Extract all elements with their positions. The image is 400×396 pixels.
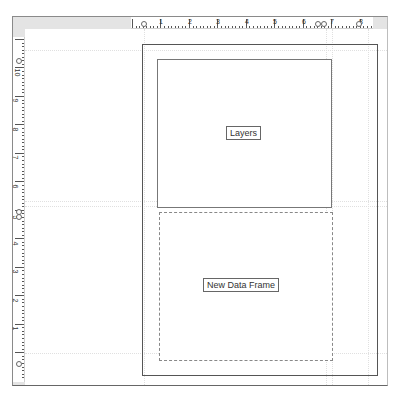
- ruler-tick: [346, 26, 347, 28]
- ruler-tick: [22, 71, 24, 72]
- ruler-tick: [22, 206, 24, 207]
- ruler-label: 4: [245, 18, 249, 25]
- ruler-tick: [371, 26, 372, 28]
- ruler-tick: [22, 377, 24, 378]
- horizontal-ruler[interactable]: 1 2 3 4 5 6 7 8: [131, 17, 373, 29]
- ruler-tick: [22, 139, 24, 140]
- data-frame-layers[interactable]: Layers: [157, 59, 332, 208]
- guide-marker[interactable]: [356, 21, 362, 27]
- ruler-tick: [203, 26, 204, 28]
- ruler-tick: [22, 245, 24, 246]
- guide-marker[interactable]: [321, 21, 327, 27]
- data-frame-name: Layers: [226, 126, 261, 140]
- ruler-tick: [22, 370, 24, 371]
- ruler-tick: [249, 26, 250, 28]
- ruler-label: 7: [12, 156, 19, 160]
- ruler-tick: [22, 270, 24, 271]
- ruler-tick: [22, 117, 24, 118]
- ruler-tick: [22, 359, 24, 360]
- ruler-tick: [139, 26, 140, 28]
- data-frame-new[interactable]: New Data Frame: [159, 212, 333, 361]
- ruler-tick: [22, 374, 24, 375]
- ruler-tick: [15, 238, 24, 239]
- ruler-tick: [22, 281, 24, 282]
- ruler-tick: [22, 142, 24, 143]
- ruler-label: 4: [12, 242, 19, 246]
- ruler-tick: [22, 100, 24, 101]
- ruler-tick: [22, 92, 24, 93]
- ruler-label: 3: [216, 18, 220, 25]
- ruler-tick: [22, 75, 24, 76]
- ruler-label: 9: [12, 99, 19, 103]
- ruler-tick: [22, 64, 24, 65]
- ruler-tick: [15, 352, 24, 353]
- ruler-tick: [239, 26, 240, 28]
- ruler-tick: [22, 196, 24, 197]
- ruler-tick: [271, 26, 272, 28]
- ruler-tick: [22, 203, 24, 204]
- ruler-tick: [22, 288, 24, 289]
- ruler-tick: [193, 26, 194, 28]
- ruler-tick: [132, 19, 133, 28]
- ruler-label: 3: [12, 270, 19, 274]
- ruler-label: 7: [330, 18, 334, 25]
- ruler-tick: [22, 242, 24, 243]
- ruler-tick: [15, 124, 24, 125]
- ruler-tick: [22, 213, 24, 214]
- ruler-tick: [22, 302, 24, 303]
- ruler-tick: [299, 26, 300, 28]
- guide-marker[interactable]: [16, 58, 22, 64]
- ruler-label: 6: [302, 18, 306, 25]
- ruler-tick: [171, 26, 172, 28]
- ruler-tick: [22, 231, 24, 232]
- ruler-tick: [232, 26, 233, 28]
- ruler-tick: [22, 185, 24, 186]
- ruler-tick: [22, 224, 24, 225]
- ruler-tick: [253, 26, 254, 28]
- ruler-tick: [150, 26, 151, 28]
- ruler-tick: [22, 78, 24, 79]
- ruler-tick: [15, 267, 24, 268]
- ruler-tick: [22, 60, 24, 61]
- ruler-tick: [260, 26, 261, 28]
- ruler-tick: [292, 26, 293, 28]
- ruler-tick: [168, 26, 169, 28]
- ruler-tick: [296, 26, 297, 28]
- layout-page: Layers New Data Frame: [142, 44, 378, 376]
- ruler-tick: [175, 26, 176, 28]
- ruler-tick: [22, 285, 24, 286]
- ruler-tick: [153, 26, 154, 28]
- ruler-tick: [22, 228, 24, 229]
- ruler-tick: [214, 26, 215, 28]
- layout-canvas[interactable]: Layers New Data Frame: [25, 29, 387, 385]
- guide-marker[interactable]: [16, 214, 22, 220]
- ruler-tick: [22, 174, 24, 175]
- ruler-tick: [210, 26, 211, 28]
- ruler-tick: [22, 57, 24, 58]
- ruler-tick: [22, 178, 24, 179]
- ruler-label: 6: [12, 185, 19, 189]
- ruler-tick: [22, 164, 24, 165]
- ruler-tick: [335, 26, 336, 28]
- ruler-tick: [22, 167, 24, 168]
- ruler-tick: [196, 26, 197, 28]
- guide-marker[interactable]: [141, 21, 147, 27]
- vertical-ruler[interactable]: 10 9 8 7 6 5 4 3 2 1: [13, 37, 25, 382]
- ruler-tick: [225, 26, 226, 28]
- ruler-label: 2: [12, 299, 19, 303]
- ruler-label: 10: [14, 69, 21, 77]
- ruler-label: 1: [159, 18, 163, 25]
- ruler-tick: [22, 292, 24, 293]
- ruler-tick: [15, 153, 24, 154]
- ruler-tick: [228, 26, 229, 28]
- ruler-tick: [22, 89, 24, 90]
- ruler-tick: [221, 26, 222, 28]
- ruler-tick: [22, 149, 24, 150]
- layout-view[interactable]: 1 2 3 4 5 6 7 8 10 9 8 7 6 5 4 3 2 1: [12, 16, 388, 386]
- ruler-tick: [22, 256, 24, 257]
- guide-marker[interactable]: [16, 361, 22, 367]
- ruler-tick: [22, 199, 24, 200]
- ruler-tick: [22, 235, 24, 236]
- data-frame-name: New Data Frame: [203, 278, 279, 292]
- ruler-tick: [22, 320, 24, 321]
